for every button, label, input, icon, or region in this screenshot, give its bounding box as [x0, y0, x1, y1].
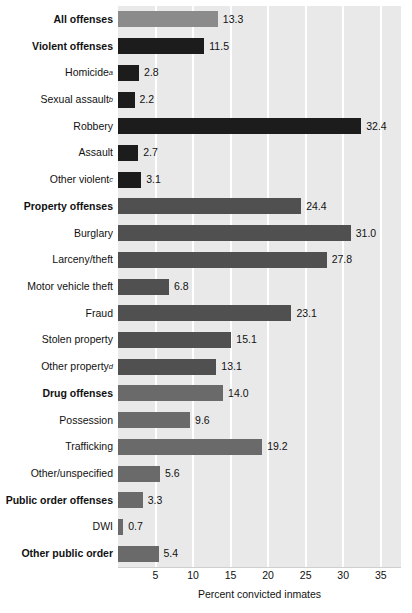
bar-value-label: 11.5	[209, 35, 229, 57]
bar-value-label: 2.8	[144, 62, 159, 84]
category-label: DWI	[0, 516, 113, 538]
x-tick-label: 5	[153, 570, 159, 581]
bar	[118, 279, 169, 295]
bar-row: Other/unspecified5.6	[0, 463, 412, 485]
bar-row: Other propertyd13.1	[0, 356, 412, 378]
bar-row: Larceny/theft27.8	[0, 249, 412, 271]
bar	[118, 332, 231, 348]
bar-row: Other violentc3.1	[0, 169, 412, 191]
x-tick-label: 20	[262, 570, 274, 581]
bar	[118, 252, 327, 268]
category-label: Sexual assaultb	[0, 89, 113, 111]
bar	[118, 492, 143, 508]
bar-row: Stolen property15.1	[0, 329, 412, 351]
bar-row: Motor vehicle theft6.8	[0, 276, 412, 298]
category-label: Stolen property	[0, 329, 113, 351]
bar-row: Homicidea2.8	[0, 62, 412, 84]
bar-chart: All offenses13.3Violent offenses11.5Homi…	[0, 0, 412, 613]
bar	[118, 519, 123, 535]
bar-row: Drug offenses14.0	[0, 382, 412, 404]
bar-value-label: 19.2	[267, 436, 287, 458]
bar-row: Other public order5.4	[0, 543, 412, 565]
category-label: Fraud	[0, 302, 113, 324]
bar-value-label: 3.1	[146, 169, 161, 191]
bar-value-label: 2.2	[140, 89, 155, 111]
bar	[118, 385, 223, 401]
bar-value-label: 0.7	[128, 516, 143, 538]
category-label: Other/unspecified	[0, 463, 113, 485]
category-label: Other propertyd	[0, 356, 113, 378]
x-tick-label: 15	[225, 570, 237, 581]
x-axis-label: Percent convicted inmates	[118, 588, 401, 600]
bar-row: Trafficking19.2	[0, 436, 412, 458]
bar-row: Assault2.7	[0, 142, 412, 164]
category-label: Burglary	[0, 222, 113, 244]
axis-baseline	[118, 567, 401, 568]
bar-value-label: 23.1	[296, 302, 316, 324]
bar-row: Fraud23.1	[0, 302, 412, 324]
bar-value-label: 27.8	[332, 249, 352, 271]
bar-value-label: 5.6	[165, 463, 180, 485]
category-label: Assault	[0, 142, 113, 164]
bar-value-label: 3.3	[148, 489, 163, 511]
bar	[118, 172, 141, 188]
bar	[118, 198, 301, 214]
bar-row: DWI0.7	[0, 516, 412, 538]
bar-value-label: 32.4	[366, 115, 386, 137]
bar	[118, 38, 204, 54]
bar	[118, 145, 138, 161]
category-label: Other violentc	[0, 169, 113, 191]
bar-value-label: 24.4	[306, 195, 326, 217]
category-label: Drug offenses	[0, 382, 113, 404]
category-label: Public order offenses	[0, 489, 113, 511]
x-tick-label: 10	[187, 570, 199, 581]
category-label: Motor vehicle theft	[0, 276, 113, 298]
category-label: Larceny/theft	[0, 249, 113, 271]
bar-value-label: 2.7	[143, 142, 158, 164]
bar-value-label: 13.1	[221, 356, 241, 378]
bar-value-label: 31.0	[356, 222, 376, 244]
bar-value-label: 5.4	[164, 543, 179, 565]
category-label: Other public order	[0, 543, 113, 565]
bar	[118, 439, 262, 455]
category-label: Robbery	[0, 115, 113, 137]
bar	[118, 92, 135, 108]
x-tick-label: 35	[375, 570, 387, 581]
bar-value-label: 15.1	[236, 329, 256, 351]
x-tick-label: 30	[337, 570, 349, 581]
bar	[118, 412, 190, 428]
bar-row: Possession9.6	[0, 409, 412, 431]
category-label: All offenses	[0, 8, 113, 30]
bar-value-label: 6.8	[174, 276, 189, 298]
bar	[118, 546, 159, 562]
bar	[118, 359, 216, 375]
bar	[118, 11, 218, 27]
category-label: Violent offenses	[0, 35, 113, 57]
category-label: Trafficking	[0, 436, 113, 458]
bar	[118, 65, 139, 81]
bar-row: Property offenses24.4	[0, 195, 412, 217]
bar	[118, 305, 291, 321]
category-label: Homicidea	[0, 62, 113, 84]
bar-row: All offenses13.3	[0, 8, 412, 30]
category-label: Possession	[0, 409, 113, 431]
bar-row: Sexual assaultb2.2	[0, 89, 412, 111]
bar	[118, 466, 160, 482]
bar-row: Robbery32.4	[0, 115, 412, 137]
bar-row: Public order offenses3.3	[0, 489, 412, 511]
bar-value-label: 14.0	[228, 382, 248, 404]
bar	[118, 225, 351, 241]
category-label: Property offenses	[0, 195, 113, 217]
bar-value-label: 13.3	[223, 8, 243, 30]
bar-row: Violent offenses11.5	[0, 35, 412, 57]
bar-value-label: 9.6	[195, 409, 210, 431]
x-tick-label: 25	[300, 570, 312, 581]
bar	[118, 118, 361, 134]
bar-row: Burglary31.0	[0, 222, 412, 244]
